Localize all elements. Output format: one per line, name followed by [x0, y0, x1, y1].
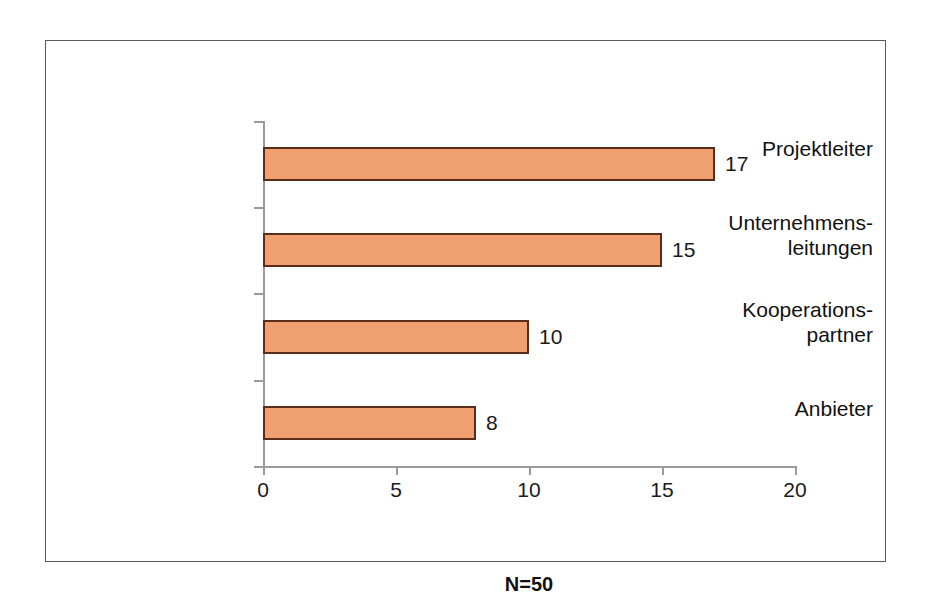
chart-caption: N=50: [263, 573, 795, 596]
bar[interactable]: [263, 320, 529, 354]
category-axis-tick: [254, 293, 263, 295]
category-axis-tick: [254, 121, 263, 123]
x-axis-tick: [263, 466, 265, 475]
x-axis-tick: [795, 466, 797, 475]
bar-value-label: 8: [486, 411, 498, 435]
category-label-unternehmensleitungen: Unternehmens- leitungen: [670, 211, 885, 261]
x-axis-tick-label: 15: [650, 478, 673, 502]
chart-frame: 0 5 10 15 20 17 15 10 8 N=50 Projektle: [45, 40, 886, 562]
bar[interactable]: [263, 233, 662, 267]
category-label-projektleiter: Projektleiter: [670, 137, 885, 162]
x-axis-tick: [529, 466, 531, 475]
x-axis-tick-label: 5: [390, 478, 402, 502]
x-axis-tick: [662, 466, 664, 475]
bar[interactable]: [263, 406, 476, 440]
x-axis-tick-label: 10: [517, 478, 540, 502]
category-axis-tick: [254, 207, 263, 209]
x-axis-tick: [396, 466, 398, 475]
category-label-kooperationspartner: Kooperations- partner: [670, 298, 885, 348]
bar[interactable]: [263, 147, 715, 181]
x-axis-tick-label: 20: [783, 478, 806, 502]
x-axis-tick-label: 0: [257, 478, 269, 502]
category-axis-tick: [254, 380, 263, 382]
category-axis-tick: [254, 466, 263, 468]
category-label-anbieter: Anbieter: [670, 397, 885, 422]
bar-value-label: 10: [539, 325, 562, 349]
